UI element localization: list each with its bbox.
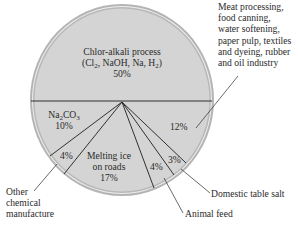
meat-desc-line: paper pulp, textiles <box>218 35 291 46</box>
animal-feed-description: Animal feed <box>185 208 233 219</box>
other-desc-line: manufacture <box>6 208 54 219</box>
other-desc-line: chemical <box>6 197 54 208</box>
meat-desc-line: Meat processing, <box>218 1 291 12</box>
pie-chart: Chlor-alkali process (Cl2, NaOH, Na, H2)… <box>0 0 298 229</box>
meat-desc-line: and dyeing, rubber <box>218 46 291 57</box>
meat-processing-percent: 12% <box>170 121 188 132</box>
domestic-salt-percent: 3% <box>168 154 181 165</box>
melting-ice-line2: on roads <box>82 161 136 172</box>
chlor-alkali-title: Chlor-alkali process <box>72 46 172 57</box>
other-chemical-description: Other chemical manufacture <box>6 186 54 220</box>
melting-ice-line1: Melting ice <box>82 150 136 161</box>
other-desc-line: Other <box>6 186 54 197</box>
chlor-alkali-formula: (Cl2, NaOH, Na, H2) <box>72 57 172 68</box>
melting-ice-percent: 17% <box>82 172 136 183</box>
slice-label-na2co3: Na2CO3 10% <box>44 109 84 131</box>
other-chemical-percent: 4% <box>60 150 73 161</box>
meat-desc-line: and oil industry <box>218 57 291 68</box>
meat-desc-line: water softening, <box>218 23 291 34</box>
meat-processing-description: Meat processing, food canning, water sof… <box>218 1 291 68</box>
domestic-salt-description: Domestic table salt <box>211 188 285 199</box>
animal-feed-percent: 4% <box>150 161 163 172</box>
meat-desc-line: food canning, <box>218 12 291 23</box>
na2co3-formula: Na2CO3 <box>44 109 84 120</box>
slice-label-chlor-alkali: Chlor-alkali process (Cl2, NaOH, Na, H2)… <box>72 46 172 80</box>
slice-label-melting-ice: Melting ice on roads 17% <box>82 150 136 184</box>
